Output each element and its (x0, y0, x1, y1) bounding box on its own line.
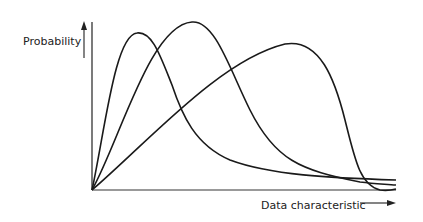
y-arrow-head (81, 21, 87, 30)
probability-distribution-diagram (0, 0, 423, 222)
curve-1 (92, 33, 396, 190)
x-axis-label: Data characteristic (261, 199, 366, 212)
x-arrow-head (387, 200, 396, 206)
y-axis-label: Probability (23, 35, 81, 48)
curve-3 (92, 43, 396, 190)
